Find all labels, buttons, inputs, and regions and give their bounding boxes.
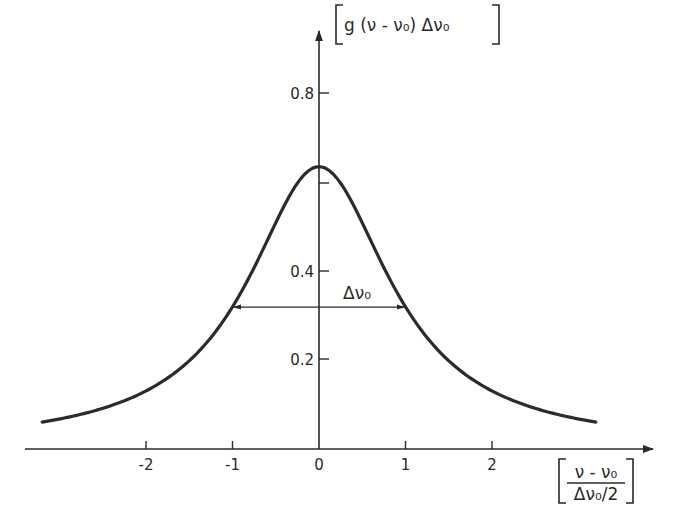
y-ticks: 0.20.40.8 bbox=[290, 85, 329, 369]
svg-text:ν - ν₀: ν - ν₀ bbox=[575, 462, 618, 482]
y-tick-label: 0.4 bbox=[290, 263, 314, 281]
x-tick-label: -2 bbox=[139, 456, 154, 474]
x-tick-label: 0 bbox=[314, 456, 324, 474]
lorentzian-chart: -2-1012 0.20.40.8 Δν₀ g (ν - ν₀) Δν₀ ν -… bbox=[0, 0, 679, 519]
x-tick-label: 2 bbox=[487, 456, 497, 474]
x-tick-label: -1 bbox=[225, 456, 240, 474]
x-axis-title: ν - ν₀ Δν₀/2 bbox=[559, 459, 633, 504]
fwhm-label: Δν₀ bbox=[343, 283, 371, 303]
x-ticks: -2-1012 bbox=[139, 441, 497, 474]
y-axis-title: g (ν - ν₀) Δν₀ bbox=[336, 5, 499, 44]
svg-text:Δν₀/2: Δν₀/2 bbox=[574, 484, 618, 504]
svg-text:g (ν - ν₀) Δν₀: g (ν - ν₀) Δν₀ bbox=[344, 15, 450, 35]
x-tick-label: 1 bbox=[401, 456, 411, 474]
y-tick-label: 0.8 bbox=[290, 85, 314, 103]
y-tick-label: 0.2 bbox=[290, 351, 314, 369]
